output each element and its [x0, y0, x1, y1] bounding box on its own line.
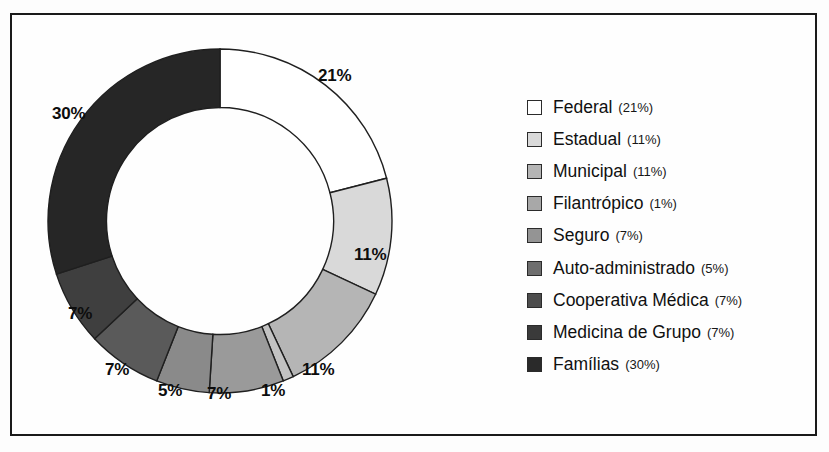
legend-swatch-icon	[527, 261, 542, 276]
legend-item-label: Cooperativa Médica	[553, 290, 709, 311]
donut-svg	[30, 23, 500, 423]
slice-value-label: 7%	[207, 384, 231, 404]
donut-slice[interactable]	[48, 49, 220, 274]
legend-item-percent: (1%)	[649, 196, 676, 211]
legend-item[interactable]: Famílias(30%)	[527, 349, 817, 381]
donut-slices	[48, 49, 392, 393]
figure-page: 21%11%11%1%7%5%7%7%30% Federal(21%)Estad…	[0, 0, 829, 452]
slice-value-label: 5%	[158, 381, 182, 401]
legend-swatch-icon	[527, 132, 542, 147]
legend-swatch-icon	[527, 196, 542, 211]
legend-item[interactable]: Cooperativa Médica(7%)	[527, 284, 817, 316]
slice-value-label: 1%	[261, 381, 285, 401]
legend-item-percent: (7%)	[615, 228, 642, 243]
slice-value-label: 7%	[105, 360, 129, 380]
legend-item-percent: (7%)	[715, 293, 742, 308]
legend-item[interactable]: Medicina de Grupo(7%)	[527, 316, 817, 348]
legend-item-percent: (30%)	[625, 357, 660, 372]
legend-swatch-icon	[527, 325, 542, 340]
slice-value-label: 7%	[68, 304, 92, 324]
legend-item[interactable]: Filantrópico(1%)	[527, 188, 817, 220]
chart-legend: Federal(21%)Estadual(11%)Municipal(11%)F…	[527, 91, 817, 381]
legend-item[interactable]: Municipal(11%)	[527, 155, 817, 187]
legend-swatch-icon	[527, 293, 542, 308]
slice-value-label: 11%	[354, 245, 387, 265]
slice-value-label: 21%	[318, 66, 351, 86]
slice-value-label: 11%	[302, 360, 335, 380]
legend-swatch-icon	[527, 357, 542, 372]
legend-swatch-icon	[527, 100, 542, 115]
legend-item-percent: (11%)	[633, 164, 667, 179]
legend-item-percent: (21%)	[618, 100, 653, 115]
legend-item-percent: (5%)	[701, 261, 728, 276]
legend-item[interactable]: Auto-administrado(5%)	[527, 252, 817, 284]
legend-item-percent: (11%)	[627, 132, 661, 147]
legend-item-label: Seguro	[553, 225, 609, 246]
legend-item[interactable]: Seguro(7%)	[527, 220, 817, 252]
legend-item-label: Famílias	[553, 354, 619, 375]
figure-frame: 21%11%11%1%7%5%7%7%30% Federal(21%)Estad…	[10, 13, 817, 436]
legend-item[interactable]: Federal(21%)	[527, 91, 817, 123]
slice-value-label: 30%	[52, 104, 85, 124]
legend-item-label: Filantrópico	[553, 193, 643, 214]
legend-item[interactable]: Estadual(11%)	[527, 123, 817, 155]
legend-item-label: Auto-administrado	[553, 258, 695, 279]
legend-swatch-icon	[527, 228, 542, 243]
legend-item-label: Medicina de Grupo	[553, 322, 701, 343]
legend-item-label: Federal	[553, 97, 612, 118]
donut-chart: 21%11%11%1%7%5%7%7%30%	[30, 23, 500, 423]
legend-item-label: Estadual	[553, 129, 621, 150]
donut-slice[interactable]	[220, 49, 387, 193]
legend-swatch-icon	[527, 164, 542, 179]
legend-item-label: Municipal	[553, 161, 627, 182]
legend-item-percent: (7%)	[707, 325, 734, 340]
